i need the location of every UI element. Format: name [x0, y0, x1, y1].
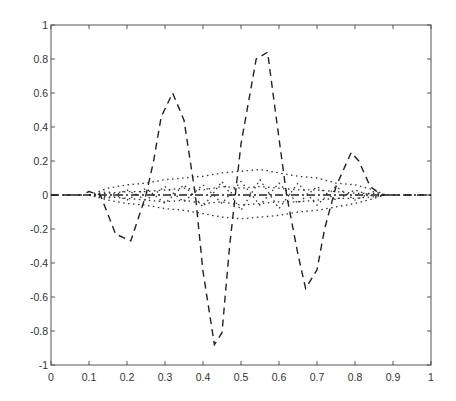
y-tick-label: -1	[39, 359, 48, 371]
y-tick-label: 0.8	[33, 53, 48, 65]
x-tick-label: 0.9	[386, 371, 401, 383]
y-tick-label: 1	[42, 19, 48, 31]
x-tick-label: 0	[48, 371, 54, 383]
y-tick-label: -0.2	[30, 223, 48, 235]
y-tick-label: 0	[42, 189, 48, 201]
y-tick-label: 0.2	[33, 155, 48, 167]
x-tick-label: 0.3	[158, 371, 173, 383]
x-tick-label: 0.1	[82, 371, 97, 383]
line-chart: 00.10.20.30.40.50.60.70.80.91 10.80.60.4…	[0, 0, 456, 401]
y-tick-label: -0.8	[30, 325, 48, 337]
y-tick-label: -0.4	[30, 257, 48, 269]
y-tick-label: 0.4	[33, 121, 48, 133]
y-tick-label: -0.6	[30, 291, 48, 303]
x-tick-label: 0.2	[120, 371, 135, 383]
x-tick-label: 0.5	[234, 371, 249, 383]
x-tick-label: 0.4	[196, 371, 211, 383]
x-tick-label: 0.6	[272, 371, 287, 383]
x-tick-label: 0.8	[348, 371, 363, 383]
x-tick-label: 1	[428, 371, 434, 383]
y-tick-label: 0.6	[33, 87, 48, 99]
x-tick-label: 0.7	[310, 371, 325, 383]
